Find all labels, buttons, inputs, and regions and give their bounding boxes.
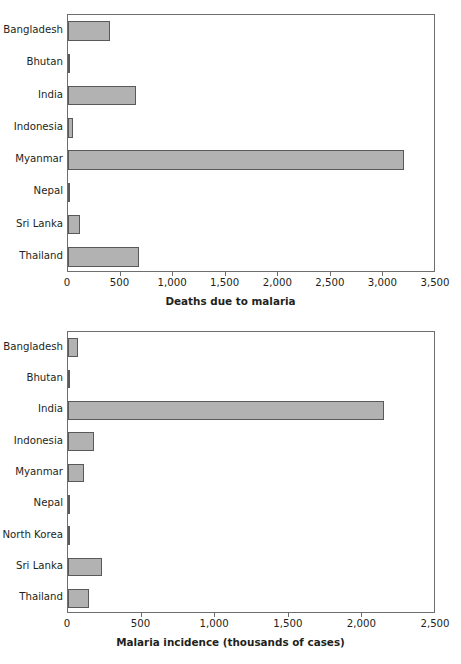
bar-india[interactable] [68,86,136,105]
bars-layer-top [68,15,434,271]
x-tick-label: 1,000 [158,278,187,288]
bar-myanmar[interactable] [68,150,404,169]
category-label-bangladesh: Bangladesh [3,25,63,35]
bar-thailand[interactable] [68,589,89,608]
bar-row [68,21,434,40]
bar-thailand[interactable] [68,247,139,266]
category-label-indonesia: Indonesia [14,122,63,132]
bar-nepal[interactable] [68,495,70,514]
bar-row [68,495,434,514]
bar-bhutan[interactable] [68,54,70,73]
bar-row [68,589,434,608]
bar-bangladesh[interactable] [68,21,110,40]
x-tick-label: 3,500 [420,278,449,288]
bar-row [68,464,434,483]
x-axis-title-top: Deaths due to malaria [0,296,461,306]
x-tick-mark [214,613,215,617]
category-label-myanmar: Myanmar [15,154,63,164]
bar-row [68,558,434,577]
category-label-bhutan: Bhutan [26,373,63,383]
bar-nepal[interactable] [68,183,70,202]
plot-area-bottom [67,331,435,613]
bar-row [68,247,434,266]
category-label-thailand: Thailand [19,592,63,602]
bar-bhutan[interactable] [68,370,70,389]
x-tick-label: 1,000 [200,619,229,629]
bar-myanmar[interactable] [68,464,84,483]
x-tick-label: 2,000 [263,278,292,288]
x-tick-mark [382,272,383,276]
category-label-thailand: Thailand [19,251,63,261]
x-tick-mark [330,272,331,276]
bars-layer-bottom [68,332,434,612]
x-tick-mark [225,272,226,276]
plot-area-top [67,14,435,272]
x-tick-mark [120,272,121,276]
category-label-india: India [38,90,63,100]
category-label-india: India [38,404,63,414]
x-axis-title-bottom: Malaria incidence (thousands of cases) [0,637,461,647]
category-label-nepal: Nepal [34,186,63,196]
bar-row [68,150,434,169]
bar-row [68,54,434,73]
x-tick-label: 500 [110,278,129,288]
bar-row [68,118,434,137]
bar-row [68,338,434,357]
bar-row [68,526,434,545]
bar-india[interactable] [68,401,384,420]
bar-row [68,370,434,389]
bar-indonesia[interactable] [68,432,94,451]
x-tick-label: 1,500 [210,278,239,288]
x-tick-mark [288,613,289,617]
bar-sri-lanka[interactable] [68,558,102,577]
x-tick-mark [141,613,142,617]
category-label-sri-lanka: Sri Lanka [16,219,63,229]
bar-sri-lanka[interactable] [68,215,80,234]
x-tick-mark [277,272,278,276]
category-label-sri-lanka: Sri Lanka [16,561,63,571]
x-tick-label: 0 [64,278,70,288]
bar-indonesia[interactable] [68,118,73,137]
bar-bangladesh[interactable] [68,338,78,357]
x-tick-label: 2,500 [420,619,449,629]
category-label-myanmar: Myanmar [15,467,63,477]
category-label-bhutan: Bhutan [26,57,63,67]
x-tick-label: 3,000 [368,278,397,288]
category-label-nepal: Nepal [34,498,63,508]
x-tick-label: 0 [64,619,70,629]
x-tick-label: 500 [131,619,150,629]
bar-row [68,215,434,234]
x-tick-mark [172,272,173,276]
bar-row [68,183,434,202]
bar-row [68,401,434,420]
chart-deaths-due-to-malaria: BangladeshBhutanIndiaIndonesiaMyanmarNep… [0,0,461,320]
x-tick-mark [361,613,362,617]
x-tick-label: 1,500 [273,619,302,629]
bar-north-korea[interactable] [68,526,70,545]
x-tick-label: 2,000 [347,619,376,629]
bar-row [68,432,434,451]
x-tick-label: 2,500 [315,278,344,288]
category-label-north-korea: North Korea [2,530,63,540]
category-label-bangladesh: Bangladesh [3,342,63,352]
category-label-indonesia: Indonesia [14,436,63,446]
chart-malaria-incidence: BangladeshBhutanIndiaIndonesiaMyanmarNep… [0,320,461,664]
bar-row [68,86,434,105]
